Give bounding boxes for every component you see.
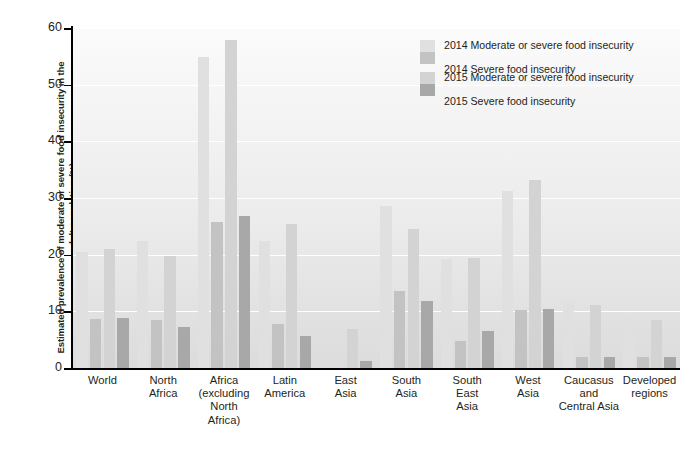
bar <box>515 310 527 368</box>
bar-chart: Estimated prevalence of moderate or seve… <box>0 0 690 454</box>
bar <box>455 341 467 368</box>
y-tick-label: 10 <box>30 303 62 317</box>
bar <box>543 309 555 368</box>
y-tick <box>64 368 72 370</box>
bar <box>211 222 223 368</box>
y-tick-label: 40 <box>30 133 62 147</box>
bar <box>421 301 433 368</box>
legend-label-2015-severe: 2015 Severe food insecurity <box>444 96 575 108</box>
bar <box>137 241 149 369</box>
legend-swatch-2015-moderate <box>420 72 435 84</box>
legend-swatch-2015-severe <box>420 84 435 96</box>
legend-label-2015-moderate: 2015 Moderate or severe food insecurity <box>444 72 634 84</box>
grid-line <box>72 255 680 256</box>
y-tick-label: 30 <box>30 190 62 204</box>
y-tick-label: 60 <box>30 20 62 34</box>
bar <box>623 317 635 368</box>
bar <box>300 336 312 368</box>
y-tick <box>64 85 72 87</box>
x-axis-label: Developed regions <box>613 374 686 400</box>
bar <box>563 302 575 368</box>
x-axis-line <box>72 368 680 370</box>
bar <box>164 256 176 368</box>
bar <box>408 229 420 368</box>
bar <box>502 191 514 368</box>
bar <box>651 320 663 368</box>
bar <box>576 357 588 368</box>
bar <box>468 258 480 368</box>
bar <box>286 224 298 368</box>
grid-line <box>72 198 680 199</box>
grid-line <box>72 85 680 86</box>
y-tick <box>64 311 72 313</box>
grid-line <box>72 141 680 142</box>
bar <box>198 57 210 368</box>
y-tick-label: 20 <box>30 247 62 261</box>
y-tick <box>64 198 72 200</box>
bar <box>151 320 163 368</box>
bar <box>178 327 190 368</box>
bar <box>441 259 453 368</box>
bar <box>272 324 284 368</box>
bar <box>90 319 102 368</box>
y-tick <box>64 28 72 30</box>
legend-swatch-2014-moderate <box>420 40 435 52</box>
y-tick-label: 0 <box>30 360 62 374</box>
bar <box>360 361 372 368</box>
bar <box>104 249 116 368</box>
y-tick <box>64 141 72 143</box>
bar <box>482 331 494 368</box>
bar <box>259 241 271 368</box>
bar <box>117 318 129 368</box>
bar <box>380 206 392 368</box>
bar <box>76 252 88 368</box>
grid-line <box>72 28 680 29</box>
bar <box>239 216 251 368</box>
legend-swatch-2014-severe <box>420 52 435 64</box>
bar <box>604 357 616 368</box>
bar <box>590 305 602 368</box>
bar <box>664 357 676 368</box>
legend-label-2014-moderate: 2014 Moderate or severe food insecurity <box>444 40 634 52</box>
bar <box>637 357 649 368</box>
bar <box>394 291 406 368</box>
bar <box>529 180 541 368</box>
y-tick-label: 50 <box>30 77 62 91</box>
y-tick <box>64 255 72 257</box>
grid-line <box>72 311 680 312</box>
bar <box>347 329 359 368</box>
bar <box>225 40 237 368</box>
